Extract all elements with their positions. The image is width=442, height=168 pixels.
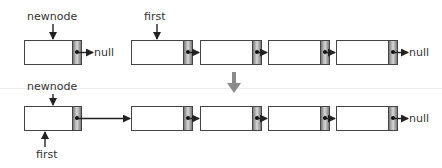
- arrows-layer: [0, 0, 442, 168]
- arrow-icons: [45, 24, 408, 147]
- down-arrow-icon: [227, 72, 241, 93]
